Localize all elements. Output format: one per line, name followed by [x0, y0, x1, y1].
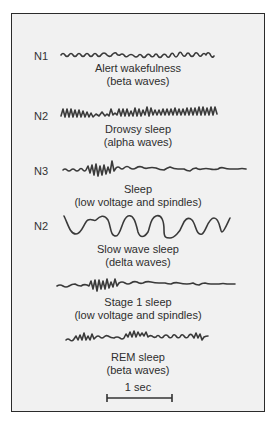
caption-stage-1-sleep: Stage 1 sleep	[12, 296, 264, 309]
caption-beta-waves-rem: (beta waves)	[12, 364, 264, 377]
caption-drowsy-sleep: Drowsy sleep	[12, 123, 264, 136]
eeg-trace-alpha-waves	[61, 105, 251, 123]
caption-sleep: Sleep	[12, 183, 264, 196]
caption-rem-sleep: REM sleep	[12, 351, 264, 364]
caption-alpha-waves: (alpha waves)	[12, 136, 264, 149]
scale-bar	[106, 393, 174, 403]
diagram-panel: N1 Alert wakefulness (beta waves) N2 Dro…	[11, 13, 265, 412]
stage-label-n3: N3	[34, 166, 48, 177]
caption-low-voltage-spindles: (low voltage and spindles)	[12, 196, 264, 209]
scale-bar-label: 1 sec	[12, 381, 264, 393]
eeg-trace-delta-waves	[64, 212, 244, 242]
eeg-trace-rem-beta-waves	[66, 330, 241, 348]
stage-label-n1: N1	[34, 51, 48, 62]
caption-low-voltage-spindles-2: (low voltage and spindles)	[12, 309, 264, 322]
stage-label-n2: N2	[34, 111, 48, 122]
caption-delta-waves: (delta waves)	[12, 256, 264, 269]
eeg-trace-spindles	[63, 155, 243, 181]
caption-beta-waves: (beta waves)	[12, 75, 264, 88]
eeg-trace-stage1-spindles	[57, 274, 257, 296]
caption-slow-wave-sleep: Slow wave sleep	[12, 243, 264, 256]
stage-label-n2-second: N2	[34, 221, 48, 232]
caption-alert-wakefulness: Alert wakefulness	[12, 62, 264, 75]
eeg-trace-beta-waves	[61, 47, 251, 63]
